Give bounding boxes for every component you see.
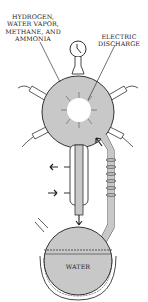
arrow-right-icon [48, 190, 57, 196]
boiling-flask [44, 227, 112, 295]
arrow-left-icon [50, 164, 58, 170]
water-label: WATER [58, 263, 98, 270]
gases-line-1: HYDROGEN, [2, 13, 64, 20]
gases-line-2: WATER VAPOR, [2, 20, 64, 27]
discharge-label: ELECTRIC DISCHARGE [96, 33, 142, 48]
discharge-line-1: ELECTRIC [96, 33, 142, 40]
water-text: WATER [58, 263, 98, 270]
gases-label: HYDROGEN, WATER VAPOR, METHANE, AND AMMO… [2, 13, 64, 42]
gases-line-4: AMMONIA [2, 35, 64, 42]
electric-discharge-icon [67, 98, 91, 122]
discharge-line-2: DISCHARGE [96, 40, 142, 47]
condenser [48, 145, 88, 225]
arrow-down-icon [76, 215, 82, 225]
gases-line-3: METHANE, AND [2, 28, 64, 35]
pressure-gauge-icon [70, 41, 86, 74]
